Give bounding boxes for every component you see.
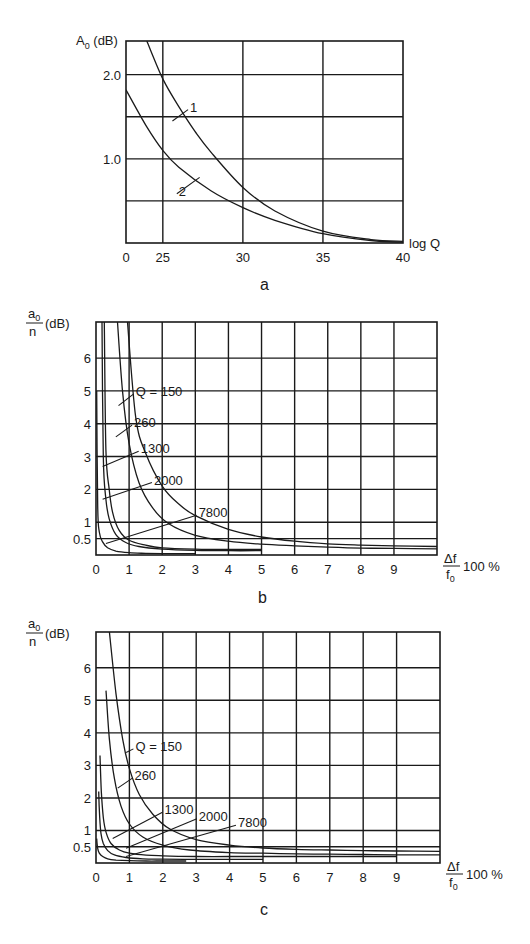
annotation-label: Q = 150 bbox=[135, 739, 182, 754]
y-axis-title-denominator: n bbox=[29, 634, 36, 649]
annotation-label: 1300 bbox=[164, 802, 193, 817]
annotation-leader bbox=[118, 778, 133, 788]
y-axis-title-denominator: n bbox=[29, 324, 36, 339]
series-curve-q150 bbox=[128, 322, 438, 547]
y-axis-title-numerator: a0 bbox=[28, 616, 40, 633]
x-tick-label: 5 bbox=[258, 562, 265, 577]
annotation-label: 1300 bbox=[141, 441, 170, 456]
panel-caption: c bbox=[260, 901, 268, 918]
y-tick-label: 2.0 bbox=[103, 68, 121, 83]
x-tick-label: 30 bbox=[236, 250, 250, 265]
y-tick-label: 2 bbox=[84, 791, 91, 806]
x-tick-label: 0 bbox=[92, 562, 99, 577]
panel-caption: b bbox=[258, 589, 267, 606]
y-tick-label: 6 bbox=[84, 661, 91, 676]
x-tick-label: 25 bbox=[156, 250, 170, 265]
x-axis-title-suffix: 100 % bbox=[466, 867, 503, 882]
y-tick-label: 2 bbox=[84, 482, 91, 497]
y-tick-label: 0.5 bbox=[73, 840, 91, 855]
annotation-label: 2000 bbox=[154, 473, 183, 488]
y-tick-label: 4 bbox=[84, 417, 91, 432]
annotation-label: 2000 bbox=[199, 809, 228, 824]
annotation-label: 260 bbox=[134, 415, 156, 430]
annotation-leader bbox=[113, 812, 163, 838]
x-axis-title-denominator: f0 bbox=[446, 567, 455, 584]
annotation-leader bbox=[172, 110, 188, 121]
x-tick-label: 8 bbox=[357, 562, 364, 577]
x-tick-label: 9 bbox=[393, 870, 400, 885]
chart-c: Q = 15026013002000780001234567890.512345… bbox=[26, 616, 503, 918]
y-axis-title-numerator: a0 bbox=[28, 306, 40, 323]
x-tick-label: 1 bbox=[125, 562, 132, 577]
plot-frame bbox=[96, 322, 437, 555]
annotation-leader bbox=[119, 394, 134, 406]
series-curve-1 bbox=[147, 41, 403, 241]
x-tick-label: 6 bbox=[291, 562, 298, 577]
y-axis-title-unit: (dB) bbox=[45, 316, 70, 331]
annotation-label: 260 bbox=[134, 768, 156, 783]
annotation-label: 7800 bbox=[199, 505, 228, 520]
chart-b: Q = 15026013002000780001234567890.512345… bbox=[26, 306, 500, 606]
y-tick-label: 1.0 bbox=[103, 152, 121, 167]
y-tick-label: 0.5 bbox=[73, 532, 91, 547]
x-axis-title-numerator: Δf bbox=[447, 859, 460, 874]
plot-frame bbox=[126, 41, 403, 243]
x-tick-label: 40 bbox=[396, 250, 410, 265]
y-tick-label: 1 bbox=[84, 515, 91, 530]
x-tick-label: 9 bbox=[390, 562, 397, 577]
chart-a: 120253035402.01.0A0 (dB)log Qa bbox=[76, 33, 440, 293]
y-tick-label: 5 bbox=[84, 693, 91, 708]
y-tick-label: 6 bbox=[84, 351, 91, 366]
annotation-leader bbox=[103, 483, 152, 500]
x-tick-label: 35 bbox=[316, 250, 330, 265]
series-curve-260 bbox=[118, 322, 438, 549]
x-tick-label: 2 bbox=[159, 562, 166, 577]
panel-caption: a bbox=[260, 276, 269, 293]
annotation-label: 7800 bbox=[238, 815, 267, 830]
y-tick-label: 1 bbox=[84, 823, 91, 838]
x-tick-label: 1 bbox=[126, 870, 133, 885]
x-tick-label: 3 bbox=[192, 562, 199, 577]
x-axis-title-denominator: f0 bbox=[449, 875, 458, 892]
y-tick-label: 5 bbox=[84, 384, 91, 399]
x-tick-label: 2 bbox=[159, 870, 166, 885]
x-tick-label: 7 bbox=[324, 562, 331, 577]
x-tick-label: 8 bbox=[360, 870, 367, 885]
x-axis-title-numerator: Δf bbox=[444, 551, 457, 566]
x-tick-label: 4 bbox=[226, 870, 233, 885]
series-curve-2 bbox=[126, 90, 403, 242]
x-tick-label: 0 bbox=[122, 250, 129, 265]
x-tick-label: 0 bbox=[92, 870, 99, 885]
series-curve-2000 bbox=[102, 322, 262, 551]
y-tick-label: 4 bbox=[84, 726, 91, 741]
y-axis-title-unit: (dB) bbox=[45, 626, 70, 641]
annotation-label: 2 bbox=[179, 184, 186, 199]
annotation-label: 1 bbox=[190, 100, 197, 115]
figure: 120253035402.01.0A0 (dB)log QaQ = 150260… bbox=[0, 0, 530, 944]
x-tick-label: 5 bbox=[259, 870, 266, 885]
x-axis-title-suffix: 100 % bbox=[463, 559, 500, 574]
x-tick-label: 3 bbox=[193, 870, 200, 885]
y-tick-label: 3 bbox=[84, 450, 91, 465]
annotation-label: Q = 150 bbox=[136, 384, 183, 399]
x-axis-title: log Q bbox=[409, 236, 440, 251]
y-tick-label: 3 bbox=[84, 758, 91, 773]
x-tick-label: 4 bbox=[225, 562, 232, 577]
x-tick-label: 6 bbox=[293, 870, 300, 885]
x-tick-label: 7 bbox=[326, 870, 333, 885]
y-axis-title: A0 (dB) bbox=[76, 33, 118, 51]
